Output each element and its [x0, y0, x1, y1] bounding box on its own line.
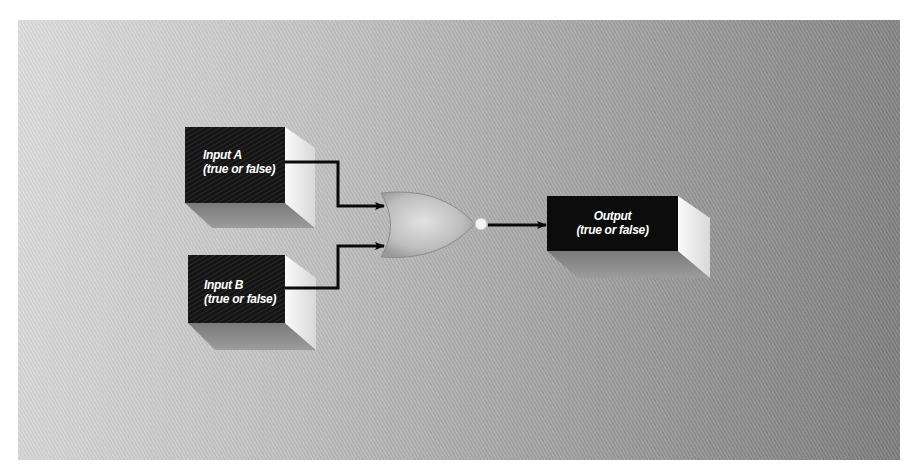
not-bubble-icon — [475, 218, 487, 230]
diagram-canvas: Input A (true or false) Input B (true or… — [18, 20, 900, 460]
input-b-label: Input B (true or false) — [204, 278, 276, 306]
output-subtitle: (true or false) — [547, 223, 678, 237]
input-a-box — [185, 127, 315, 228]
output-label: Output (true or false) — [547, 209, 678, 237]
output-title: Output — [547, 209, 678, 223]
input-b-title: Input B — [204, 278, 276, 292]
input-a-subtitle: (true or false) — [203, 162, 275, 176]
input-b-subtitle: (true or false) — [204, 292, 276, 306]
input-a-title: Input A — [203, 148, 275, 162]
or-gate-body — [381, 192, 475, 258]
nor-gate-icon — [381, 192, 487, 258]
input-a-label: Input A (true or false) — [203, 148, 275, 176]
diagram-svg — [18, 20, 900, 460]
